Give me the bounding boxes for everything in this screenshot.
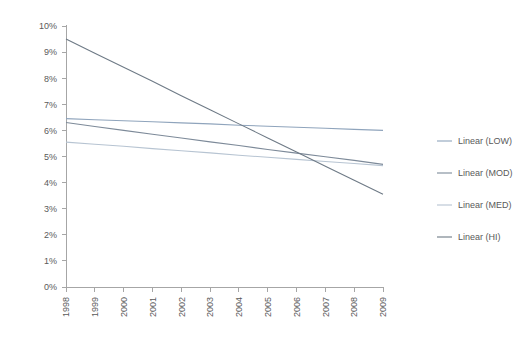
x-tick-label: 2009 xyxy=(378,297,388,317)
line-chart: 0%1%2%3%4%5%6%7%8%9%10% 1998199920002001… xyxy=(0,0,529,341)
x-tick-label: 1998 xyxy=(61,297,71,317)
y-tick-label: 9% xyxy=(44,47,57,57)
y-tick-label: 10% xyxy=(39,21,57,31)
x-tick-label: 1999 xyxy=(90,297,100,317)
x-tick-label: 2000 xyxy=(119,297,129,317)
x-tick-label: 2008 xyxy=(349,297,359,317)
y-tick-label: 5% xyxy=(44,152,57,162)
y-axis: 0%1%2%3%4%5%6%7%8%9%10% xyxy=(39,21,66,292)
legend-label-3[interactable]: Linear (HI) xyxy=(458,232,501,242)
x-tick-label: 2003 xyxy=(205,297,215,317)
legend-label-1[interactable]: Linear (MOD) xyxy=(458,168,513,178)
x-axis: 1998199920002001200220032004200520062007… xyxy=(61,287,388,317)
y-tick-label: 7% xyxy=(44,100,57,110)
y-tick-label: 8% xyxy=(44,74,57,84)
y-tick-label: 2% xyxy=(44,230,57,240)
x-tick-label: 2004 xyxy=(234,297,244,317)
x-tick-label: 2006 xyxy=(292,297,302,317)
series-line-linear-hi xyxy=(66,39,383,194)
series-line-linear-med xyxy=(66,142,383,165)
x-tick-label: 2002 xyxy=(177,297,187,317)
y-tick-label: 6% xyxy=(44,126,57,136)
y-tick-label: 0% xyxy=(44,282,57,292)
legend-label-2[interactable]: Linear (MED) xyxy=(458,200,512,210)
y-tick-label: 4% xyxy=(44,178,57,188)
legend-label-0[interactable]: Linear (LOW) xyxy=(458,136,512,146)
x-tick-label: 2007 xyxy=(321,297,331,317)
chart-legend: Linear (LOW)Linear (MOD)Linear (MED)Line… xyxy=(437,136,513,242)
chart-container: 0%1%2%3%4%5%6%7%8%9%10% 1998199920002001… xyxy=(0,0,529,341)
plot-series-area xyxy=(66,39,383,194)
y-tick-label: 3% xyxy=(44,204,57,214)
x-tick-label: 2005 xyxy=(263,297,273,317)
y-tick-label: 1% xyxy=(44,256,57,266)
x-tick-label: 2001 xyxy=(148,297,158,317)
